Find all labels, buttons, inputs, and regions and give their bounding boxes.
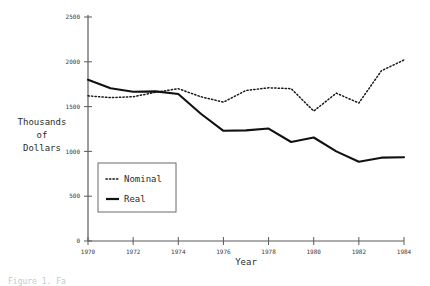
y-tick-label: 1500: [66, 103, 81, 110]
legend-label-real: Real: [124, 194, 146, 204]
y-tick-label: 2500: [66, 13, 81, 20]
chart-legend: Nominal Real: [98, 163, 176, 212]
y-axis-title-line-3: Dollars: [23, 143, 61, 153]
x-tick-label: 1972: [126, 248, 141, 255]
y-axis-title: Thousands of Dollars: [18, 117, 67, 153]
x-tick-label: 1970: [81, 248, 96, 255]
legend-label-nominal: Nominal: [124, 174, 162, 184]
y-axis-title-line-2: of: [37, 130, 48, 140]
x-tick-label: 1978: [261, 248, 276, 255]
series-line-real: [88, 80, 404, 162]
series-group: [88, 60, 404, 162]
x-tick-label: 1984: [397, 248, 412, 255]
series-line-nominal: [88, 60, 404, 111]
x-axis-ticks: 19701972197419761978198019821984: [81, 237, 412, 255]
x-tick-label: 1980: [306, 248, 321, 255]
y-tick-label: 2000: [66, 58, 81, 65]
y-axis-title-line-1: Thousands: [18, 117, 67, 127]
x-tick-label: 1974: [171, 248, 186, 255]
y-tick-label: 500: [69, 192, 80, 199]
x-tick-label: 1976: [216, 248, 231, 255]
x-tick-label: 1982: [352, 248, 367, 255]
y-tick-label: 0: [76, 237, 80, 244]
x-axis-title: Year: [235, 257, 257, 267]
legend-box: [98, 163, 176, 212]
figure-caption: Figure 1. Fa: [8, 277, 66, 286]
y-tick-label: 1000: [66, 148, 81, 155]
